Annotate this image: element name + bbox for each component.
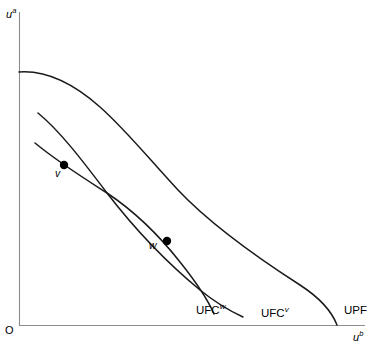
curve-label-ufc-w: UFCw — [196, 303, 225, 316]
point-label-w: w — [149, 240, 157, 251]
curve-label-ufc-w-base: UFC — [196, 304, 220, 316]
curve-label-ufc-w-superscript: w — [220, 302, 226, 311]
origin-label: O — [5, 325, 14, 336]
curve-ufc-v — [38, 113, 243, 317]
point-marker-v — [60, 161, 68, 169]
curve-ufc-w — [35, 143, 214, 314]
curve-label-upf: UPF — [344, 305, 367, 317]
welfare-diagram-figure: ua ub O UFCw UFCv UPF v w — [0, 0, 376, 349]
curve-label-ufc-v: UFCv — [261, 306, 289, 319]
y-axis-label-superscript: a — [12, 6, 16, 15]
x-axis-label: ub — [353, 330, 363, 343]
curve-label-ufc-v-base: UFC — [261, 307, 285, 319]
y-axis-label: ua — [6, 7, 16, 20]
point-label-v: v — [55, 168, 60, 179]
x-axis-label-superscript: b — [359, 329, 363, 338]
curve-label-ufc-v-superscript: v — [285, 305, 289, 314]
curve-upf — [19, 72, 337, 325]
point-marker-w — [163, 237, 171, 245]
